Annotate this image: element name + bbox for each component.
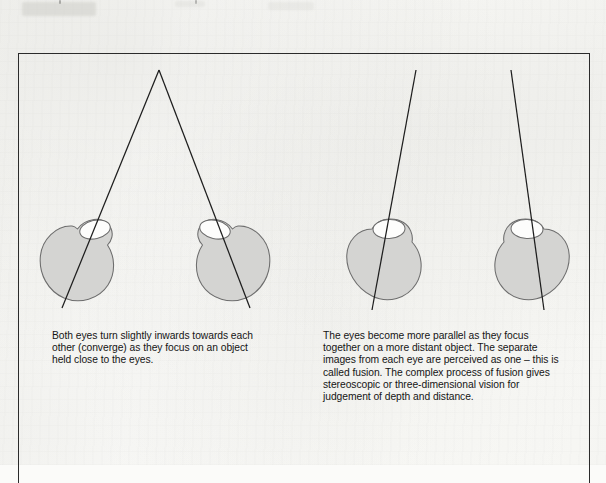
figure-frame <box>18 53 590 483</box>
crop-descender-trace <box>59 0 61 4</box>
caption-convergence: Both eyes turn slightly inwards towards … <box>52 330 302 367</box>
crop-smudge <box>268 2 314 10</box>
crop-smudge <box>22 2 96 16</box>
caption-fusion: The eyes become more parallel as they fo… <box>323 330 573 403</box>
crop-smudge <box>175 1 205 7</box>
